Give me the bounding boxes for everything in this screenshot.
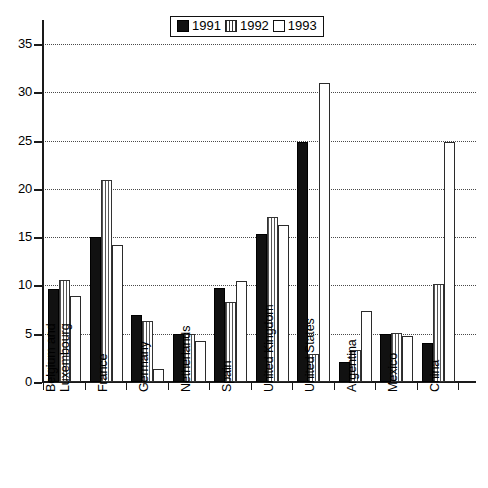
y-axis-tick [34,382,42,384]
chart-legend: 1991 1992 1993 [170,16,324,37]
legend-label-1993: 1993 [288,19,317,33]
y-axis-tick [34,285,42,287]
y-axis-label: 10 [2,278,32,291]
x-axis-tick [334,383,335,390]
x-axis-label: United States [303,318,317,392]
bar-1993 [195,341,206,382]
legend-label-1991: 1991 [192,19,221,33]
bar-chart: 1991 1992 1993 05101520253035 Belgium an… [0,0,488,488]
plot-area [42,20,476,382]
bar-1993 [361,311,372,382]
hatched-swatch-icon [225,20,237,32]
y-axis-tick [34,141,42,143]
x-axis-tick [85,383,86,390]
y-axis-tick [34,44,42,46]
bar-1993 [444,142,455,382]
x-axis-tick [126,383,127,390]
x-axis-label: Spain [220,361,234,392]
bar-1993 [278,225,289,382]
y-axis-label: 5 [2,327,32,340]
x-axis-label: Argentina [345,339,359,392]
legend-item-1991: 1991 [177,19,221,33]
bar-1993 [112,245,123,382]
bar-group [131,20,164,382]
x-axis-label: Mexico [386,353,400,392]
x-axis-label: United Kingdom [262,304,276,392]
y-axis-label: 0 [2,375,32,388]
legend-label-1992: 1992 [240,19,269,33]
bar-1993 [319,83,330,382]
x-axis-tick [209,383,210,390]
solid-black-swatch-icon [177,20,189,32]
bar-1992 [101,180,112,382]
x-axis-label: China [428,360,442,392]
y-axis-tick [34,92,42,94]
y-axis-label: 15 [2,230,32,243]
bar-group [214,20,247,382]
legend-item-1993: 1993 [273,19,317,33]
x-axis-label-line: Belgium and [44,324,58,393]
y-axis-label: 20 [2,182,32,195]
legend-item-1992: 1992 [225,19,269,33]
bar-group [90,20,123,382]
bar-1993 [402,336,413,382]
x-axis-tick [168,383,169,390]
x-axis-label: Belgium andLuxembourg [44,324,72,393]
x-axis-label: Netherlands [179,326,193,392]
x-axis-tick [458,383,459,390]
bar-group [339,20,372,382]
bar-1993 [236,281,247,382]
y-axis-tick [34,237,42,239]
x-axis-tick [417,383,418,390]
x-axis-label-line: Luxembourg [58,324,72,393]
white-swatch-icon [273,20,285,32]
bar-group [422,20,455,382]
x-axis-tick [251,383,252,390]
y-axis-tick [34,189,42,191]
x-axis-label: Germany [137,341,151,392]
x-axis-tick [292,383,293,390]
y-axis-label: 35 [2,37,32,50]
x-axis-label: France [96,354,110,392]
y-axis-tick [34,334,42,336]
bar-1993 [153,369,164,382]
y-axis-label: 30 [2,85,32,98]
y-axis-label: 25 [2,134,32,147]
x-axis-tick [375,383,376,390]
bar-group [380,20,413,382]
